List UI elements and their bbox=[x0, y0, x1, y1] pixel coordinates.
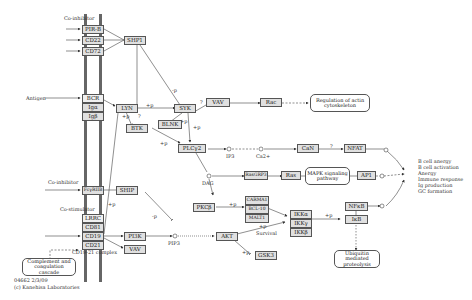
node-ikb[interactable]: IκB bbox=[345, 215, 368, 224]
node-cd81[interactable]: CD81 bbox=[82, 223, 104, 232]
node-carma1[interactable]: CARMA1 bbox=[245, 196, 269, 205]
label-cd19-21-complex: CD19-21 complex bbox=[72, 250, 117, 255]
label-survival: Survival bbox=[256, 231, 277, 236]
node-ap1[interactable]: AP1 bbox=[357, 171, 376, 180]
edge-label-dephos: -p bbox=[172, 88, 177, 93]
node-malt1[interactable]: MALT1 bbox=[245, 214, 269, 223]
node-iga[interactable]: Igα bbox=[82, 103, 104, 112]
label-antigen: Antigen bbox=[26, 96, 46, 101]
edge-label-phos: +p bbox=[193, 125, 200, 130]
node-pirb[interactable]: PIR-B bbox=[82, 25, 104, 34]
edge-label-phos: +p bbox=[160, 141, 167, 146]
edge-label-unknown: ? bbox=[138, 114, 141, 119]
pathway-diagram: Co-inhibitor Antigen Co-inhibitor Co-sti… bbox=[0, 0, 472, 300]
node-ikkb[interactable]: IKKβ bbox=[290, 228, 312, 237]
node-nfkb[interactable]: NFκB bbox=[345, 202, 368, 211]
node-vav-top[interactable]: VAV bbox=[206, 98, 230, 107]
node-can[interactable]: CaN bbox=[297, 144, 319, 153]
outcome-list: B cell anergy B cell activation Anergy I… bbox=[418, 158, 463, 194]
label-ca2: Ca2+ bbox=[256, 154, 270, 159]
edge-label-phos: +p bbox=[122, 114, 129, 119]
map-actin-cytoskeleton[interactable]: Regulation of actin cytoskeleton bbox=[310, 94, 370, 112]
node-bcr[interactable]: BCR bbox=[82, 94, 104, 103]
node-nfat[interactable]: NFAT bbox=[344, 144, 366, 153]
node-ship[interactable]: SHIP bbox=[116, 186, 138, 195]
edge-label-phos: +p bbox=[108, 202, 115, 207]
edge-label-unknown: ? bbox=[200, 100, 203, 105]
label-co-inhibitor-mid: Co-inhibitor bbox=[48, 180, 78, 185]
label-copyright-id: 04662 2/3/09 bbox=[14, 278, 48, 283]
label-co-stimulator: Co-stimulator bbox=[60, 207, 95, 212]
node-ikka[interactable]: IKKα bbox=[290, 210, 312, 219]
node-ras[interactable]: Ras bbox=[281, 171, 301, 180]
node-ikkg[interactable]: IKKγ bbox=[290, 219, 312, 228]
node-lyn[interactable]: LYN bbox=[116, 104, 138, 113]
node-cd22[interactable]: CD22 bbox=[82, 36, 104, 45]
node-lrrc[interactable]: LRRC bbox=[82, 214, 104, 223]
node-btk[interactable]: BTK bbox=[126, 124, 148, 133]
edge-label-unknown: ? bbox=[330, 144, 333, 149]
node-bcl10[interactable]: BCL-10 bbox=[245, 205, 269, 214]
node-ship1[interactable]: SHP1 bbox=[124, 36, 146, 45]
node-pi3k[interactable]: PI3K bbox=[124, 232, 146, 241]
node-blnk[interactable]: BLNK bbox=[158, 120, 182, 129]
node-cd72[interactable]: CD72 bbox=[82, 47, 104, 56]
node-igb[interactable]: Igβ bbox=[82, 112, 104, 121]
edge-label-phos: +p bbox=[325, 213, 332, 218]
edge-label-phos: +p bbox=[259, 224, 266, 229]
map-ubiquitin-proteolysis[interactable]: Ubiquitin mediated proteolysis bbox=[334, 250, 380, 268]
edge-label-dephos: -p bbox=[152, 214, 157, 219]
label-pip3: PIP3 bbox=[168, 241, 180, 246]
label-copyright: (c) Kanehisa Laboratories bbox=[14, 285, 80, 290]
edges-layer bbox=[0, 0, 472, 300]
label-dag: DAG bbox=[202, 181, 214, 186]
node-akt[interactable]: AKT bbox=[216, 232, 238, 241]
outcome-item: GC formation bbox=[418, 188, 463, 194]
node-gsk3[interactable]: GSK3 bbox=[255, 251, 277, 260]
node-cd21[interactable]: CD21 bbox=[82, 241, 104, 250]
node-cd19[interactable]: CD19 bbox=[82, 232, 104, 241]
node-fcgriib[interactable]: FcγRIIB bbox=[82, 186, 104, 195]
edge-label-phos: +p bbox=[242, 250, 249, 255]
label-ip3: IP3 bbox=[226, 154, 235, 159]
node-rasgrp3[interactable]: RasGRP3 bbox=[244, 171, 268, 180]
map-mapk-signaling[interactable]: MAPK signaling pathway bbox=[305, 167, 350, 185]
node-plcg2[interactable]: PLCγ2 bbox=[178, 144, 206, 153]
map-complement-coagulation[interactable]: Complement and coagulation cascade bbox=[22, 258, 76, 276]
edge-label-phos: +p bbox=[146, 103, 153, 108]
edge-label-phos: +p bbox=[229, 202, 236, 207]
node-pkcb[interactable]: PKCβ bbox=[193, 203, 215, 212]
node-vav-bottom[interactable]: VAV bbox=[124, 245, 146, 254]
node-rac[interactable]: Rac bbox=[260, 98, 282, 107]
label-co-inhibitor-top: Co-inhibitor bbox=[64, 16, 94, 21]
node-syk[interactable]: SYK bbox=[174, 104, 196, 113]
